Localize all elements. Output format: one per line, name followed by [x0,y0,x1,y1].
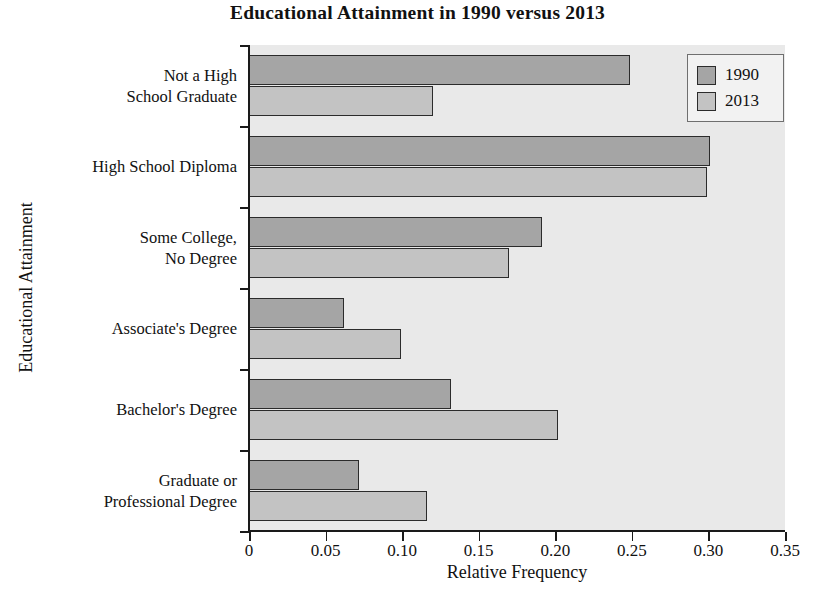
bar-2013-3 [249,329,401,359]
bar-1990-3 [249,298,344,328]
legend-item-1990: 1990 [697,62,775,88]
y-tick-mark-4 [240,369,249,371]
x-tick-label-6: 0.30 [673,541,743,561]
bar-1990-1 [249,136,710,166]
bar-2013-2 [249,248,509,278]
bar-1990-5 [249,460,359,490]
y-tick-label-0: Not a High School Graduate [0,65,237,107]
x-tick-mark-4 [555,532,557,541]
x-axis-line [248,530,785,532]
x-tick-label-4: 0.20 [520,541,590,561]
legend-item-2013: 2013 [697,88,775,114]
bar-2013-4 [249,410,558,440]
bar-2013-1 [249,167,707,197]
legend-swatch-1990-icon [697,66,716,85]
y-tick-mark-2 [240,207,249,209]
chart-title: Educational Attainment in 1990 versus 20… [0,2,835,24]
x-tick-mark-1 [326,532,328,541]
y-axis-title: Educational Attainment [16,158,37,418]
x-tick-mark-0 [249,532,251,541]
bar-1990-4 [249,379,451,409]
x-axis-title: Relative Frequency [249,562,785,583]
legend-swatch-2013-icon [697,92,716,111]
x-tick-label-5: 0.25 [597,541,667,561]
x-tick-label-3: 0.15 [444,541,514,561]
bar-1990-0 [249,55,630,85]
x-tick-mark-2 [402,532,404,541]
x-tick-label-7: 0.35 [750,541,820,561]
y-tick-mark-5 [240,450,249,452]
x-tick-label-2: 0.10 [367,541,437,561]
x-tick-mark-5 [632,532,634,541]
x-tick-mark-7 [785,532,787,541]
x-tick-label-1: 0.05 [291,541,361,561]
x-tick-label-0: 0 [214,541,284,561]
chart-legend: 1990 2013 [687,54,784,122]
bar-2013-5 [249,491,427,521]
y-tick-mark-1 [240,126,249,128]
y-tick-mark-0 [240,45,249,47]
chart-figure: Educational Attainment in 1990 versus 20… [0,0,835,589]
x-tick-mark-3 [479,532,481,541]
y-tick-label-5: Graduate or Professional Degree [0,470,237,512]
bar-2013-0 [249,86,433,116]
y-tick-mark-3 [240,288,249,290]
legend-label-1990: 1990 [725,65,759,85]
x-tick-mark-6 [708,532,710,541]
legend-label-2013: 2013 [725,91,759,111]
y-tick-mark-6 [240,531,249,533]
bar-1990-2 [249,217,542,247]
